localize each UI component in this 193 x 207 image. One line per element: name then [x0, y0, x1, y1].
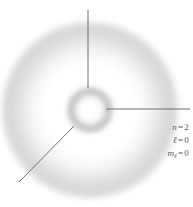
quantum-value-ml: 0: [184, 148, 189, 158]
leader-lines-group: [0, 0, 193, 207]
quantum-number-row-ml: mℓ=0: [168, 148, 189, 161]
quantum-value-l: 0: [184, 135, 189, 145]
quantum-number-row-l: ℓ=0: [168, 135, 189, 148]
quantum-number-row-n: n=2: [168, 122, 189, 135]
orbital-figure: n=2 ℓ=0 mℓ=0: [0, 0, 193, 207]
node-pointer-line: [19, 126, 74, 182]
quantum-value-n: 2: [184, 122, 189, 132]
quantum-numbers-block: n=2 ℓ=0 mℓ=0: [168, 122, 189, 161]
